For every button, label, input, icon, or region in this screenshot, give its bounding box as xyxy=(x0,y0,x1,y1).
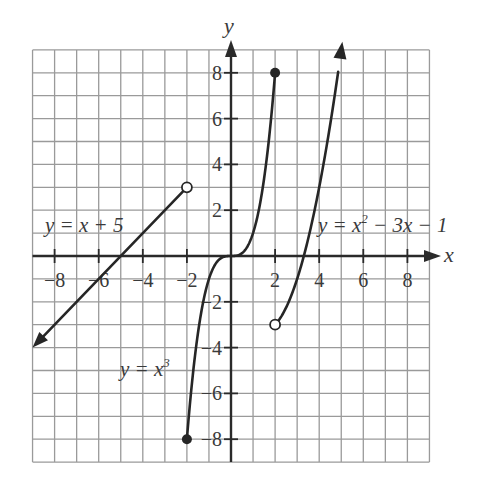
x-tick-label: −4 xyxy=(132,269,153,291)
y-axis-label: y xyxy=(222,13,234,38)
cubic-eq-base: y = x xyxy=(118,357,164,381)
open-endpoint-icon xyxy=(182,182,192,192)
x-axis-arrow-icon xyxy=(424,250,441,262)
closed-endpoint-icon xyxy=(270,68,280,78)
quadratic-equation-label: y = x2 − 3x − 1 xyxy=(316,211,447,237)
x-tick-label: 2 xyxy=(270,269,280,291)
y-tick-label: −8 xyxy=(201,428,222,450)
closed-endpoint-icon xyxy=(182,434,192,444)
x-tick-label: −2 xyxy=(176,269,197,291)
piecewise-function-graph: −8−6−4−224688642−2−4−6−8 y x y = x + 5 y… xyxy=(0,0,480,489)
axes xyxy=(33,40,441,462)
y-tick-label: 6 xyxy=(212,108,222,130)
y-tick-label: −4 xyxy=(201,337,222,359)
x-tick-label: −8 xyxy=(44,269,65,291)
quadratic-arrow-icon xyxy=(334,42,347,60)
y-tick-label: 8 xyxy=(212,62,222,84)
x-tick-label: 4 xyxy=(314,269,324,291)
quadratic-curve xyxy=(276,72,338,323)
cubic-eq-exponent: 3 xyxy=(162,355,170,370)
y-tick-label: −6 xyxy=(201,382,222,404)
open-endpoint-icon xyxy=(270,320,280,330)
quad-eq-base: y = x xyxy=(316,213,362,237)
quad-eq-tail: − 3x − 1 xyxy=(368,213,448,237)
cubic-equation-label: y = x3 xyxy=(118,355,170,381)
line-equation-label: y = x + 5 xyxy=(43,213,123,237)
x-tick-label: 6 xyxy=(358,269,368,291)
y-tick-label: 4 xyxy=(212,153,222,175)
x-axis-label: x xyxy=(443,242,454,267)
y-tick-label: 2 xyxy=(212,199,222,221)
x-tick-label: 8 xyxy=(402,269,412,291)
function-curves xyxy=(33,42,347,439)
y-axis-arrow-icon xyxy=(225,40,237,57)
